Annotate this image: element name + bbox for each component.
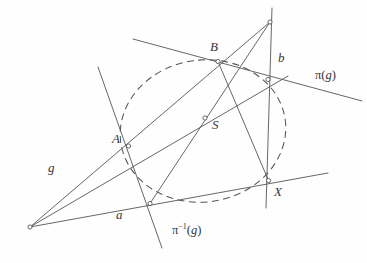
line-through-A-S (30, 76, 288, 227)
point-top-vertex-marker (268, 20, 272, 24)
dashed-conic-icon (111, 49, 295, 213)
map-label-pi-inv-g: π−1(g) (172, 222, 201, 237)
line-B-to-X (218, 62, 269, 181)
line-g (30, 22, 270, 227)
labels-group: A B S X g a b π(g) π−1(g) (48, 39, 336, 237)
conic-group (111, 49, 295, 213)
line-label-g: g (48, 160, 55, 175)
point-bottom-intersection-marker (148, 201, 152, 205)
point-X-marker (266, 178, 270, 182)
map-label-pi-g: π(g) (315, 68, 336, 82)
geometry-figure: A B S X g a b π(g) π−1(g) (0, 0, 367, 263)
figure-canvas: A B S X g a b π(g) π−1(g) (0, 0, 367, 263)
line-a (30, 173, 328, 227)
point-B-marker (216, 59, 220, 63)
map-label-pi-g-suffix: ) (332, 68, 336, 82)
line-label-a: a (116, 207, 123, 222)
line-label-b: b (278, 50, 285, 65)
map-label-pi-inv-g-superscript: −1 (178, 222, 187, 231)
point-label-A: A (111, 131, 120, 146)
point-label-S: S (212, 117, 219, 132)
point-S-marker (203, 116, 207, 120)
line-pi-inv-g (98, 67, 162, 248)
point-A-marker (126, 144, 130, 148)
map-label-pi-inv-g-suffix: ) (197, 223, 201, 237)
map-label-pi-g-prefix: π( (315, 68, 325, 82)
line-b-vertical (266, 8, 272, 208)
point-left-vertex-marker (28, 225, 32, 229)
point-label-B: B (210, 39, 218, 54)
point-right-intersection-marker (266, 77, 270, 81)
point-label-X: X (273, 184, 283, 199)
lines-group (30, 8, 362, 248)
